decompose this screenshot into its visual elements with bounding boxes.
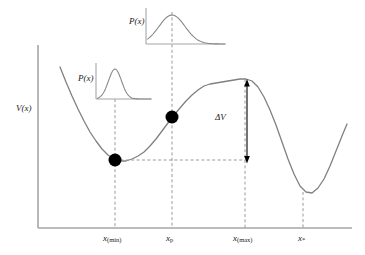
x-p-sub: p [170,236,173,243]
upper-inset-label: P(x) [129,16,145,26]
x-star-tick-label: x* [298,233,305,243]
x-min-sub: (min) [107,236,121,243]
x-max-sub: (max) [237,236,253,243]
lower-inset-label: P(x) [78,73,94,83]
particle-at-xp-marker [166,111,179,124]
particle-at-min-marker [109,154,122,167]
x-star-sub: * [302,236,305,243]
x-min-tick-label: x(min) [103,233,121,243]
y-axis-label: V(x) [16,103,32,113]
x-max-tick-label: x(max) [233,233,253,243]
x-p-tick-label: xp [166,233,173,243]
figure-background [0,0,365,255]
delta-v-label: ΔV [215,112,226,122]
potential-energy-diagram [0,0,365,255]
